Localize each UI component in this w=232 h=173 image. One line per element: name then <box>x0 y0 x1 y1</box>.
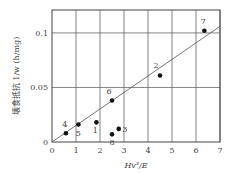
point-label: 4 <box>62 120 67 129</box>
x-tick-label: 2 <box>97 146 102 155</box>
point-label: 6 <box>106 87 111 96</box>
point-label: 5 <box>76 129 81 138</box>
x-tick-label: 3 <box>121 146 126 155</box>
y-axis-label: 壊食抵抗 1/w (h/mg) <box>11 37 21 116</box>
x-tick-label: 5 <box>169 146 174 155</box>
data-point <box>116 127 121 132</box>
x-tick-label: 0 <box>49 146 54 155</box>
point-label: 7 <box>201 17 206 26</box>
data-point <box>110 132 115 137</box>
y-tick-label: 0.05 <box>30 83 48 92</box>
axes <box>52 10 220 142</box>
x-tick-label: 6 <box>193 146 198 155</box>
data-point <box>64 131 69 136</box>
point-label: 8 <box>109 138 114 147</box>
x-tick-label: 4 <box>145 146 150 155</box>
y-tick-label: 0 <box>43 138 48 147</box>
scatter-chart: 12345678 01234567 00.050.1 Hv³/E 壊食抵抗 1/… <box>0 0 232 173</box>
point-label: 3 <box>122 125 127 134</box>
data-point <box>76 122 81 127</box>
x-tick-label: 7 <box>217 146 222 155</box>
data-point <box>94 120 99 125</box>
x-tick-label: 1 <box>73 146 78 155</box>
plot-frame <box>52 10 220 142</box>
data-point <box>202 28 207 33</box>
x-tick-labels: 01234567 <box>49 146 222 155</box>
data-point <box>110 98 115 103</box>
point-label: 2 <box>153 61 158 70</box>
grid-lines <box>52 10 220 142</box>
y-tick-label: 0.1 <box>35 29 48 38</box>
data-point <box>158 73 163 78</box>
x-axis-label: Hv³/E <box>123 161 147 170</box>
data-points: 12345678 <box>62 17 206 148</box>
point-label: 1 <box>93 126 98 135</box>
y-tick-labels: 00.050.1 <box>30 29 48 147</box>
